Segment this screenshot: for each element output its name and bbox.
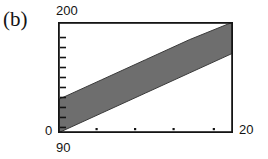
figure-panel-b: (b) 200 0 90 20 xyxy=(0,0,268,159)
x-axis-tick xyxy=(134,128,136,130)
y-axis-min-label: 0 xyxy=(45,124,52,137)
x-axis-tick xyxy=(173,128,175,130)
y-axis-max-label: 200 xyxy=(56,4,78,17)
data-band xyxy=(58,22,233,133)
x-axis-tick xyxy=(96,128,98,130)
x-axis-tick xyxy=(213,128,215,130)
x-axis-ticks xyxy=(96,128,215,130)
x-axis-min-label: 90 xyxy=(56,141,70,154)
panel-label: (b) xyxy=(3,9,28,30)
x-axis-max-label: 20 xyxy=(239,123,253,136)
band-polygon xyxy=(58,22,233,133)
plot-area xyxy=(58,22,233,133)
plot-svg xyxy=(58,22,233,133)
